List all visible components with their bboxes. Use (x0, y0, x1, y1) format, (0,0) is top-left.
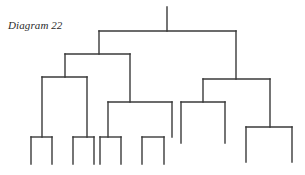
cluster-5 (181, 79, 225, 143)
branch-left (31, 31, 172, 164)
cluster-6 (246, 79, 292, 162)
cluster-2 (73, 77, 94, 164)
dendrogram (0, 0, 305, 175)
branch-right (181, 31, 292, 162)
cluster-3 (100, 102, 121, 164)
branch-left-left (31, 54, 94, 164)
root-node (99, 7, 236, 31)
cluster-4 (142, 102, 172, 164)
cluster-1 (31, 77, 52, 164)
branch-left-right (100, 54, 172, 164)
